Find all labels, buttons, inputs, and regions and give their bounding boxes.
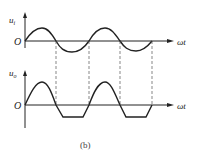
- top-y-label: ui: [9, 15, 16, 26]
- bottom-origin-label: O: [14, 100, 21, 111]
- top-y-arrow-icon: [23, 12, 27, 18]
- bottom-x-arrow-icon: [167, 103, 174, 107]
- bottom-y-label: uo: [9, 68, 17, 79]
- figure-caption: (b): [80, 140, 91, 150]
- top-x-label: ωt: [177, 37, 186, 47]
- bottom-plot: uo O ωt: [9, 68, 186, 128]
- top-origin-label: O: [14, 36, 21, 47]
- top-x-arrow-icon: [167, 39, 174, 43]
- bottom-x-label: ωt: [177, 101, 186, 111]
- bottom-y-arrow-icon: [23, 70, 27, 76]
- waveform-diagram: ui O ωt uo O ωt (b): [0, 0, 197, 158]
- top-plot: ui O ωt: [9, 12, 186, 52]
- input-sine-wave: [25, 28, 152, 52]
- output-clipped-wave: [25, 82, 152, 117]
